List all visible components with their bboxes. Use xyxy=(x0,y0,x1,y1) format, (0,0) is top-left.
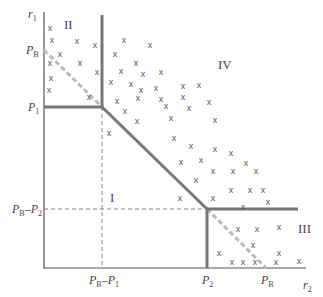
x-tick-p2: P2 xyxy=(201,273,213,289)
x-tick-pb: PB xyxy=(260,273,274,289)
marker: x xyxy=(241,202,246,212)
y-tick-p1: P1 xyxy=(27,100,39,116)
boundary-diagonal xyxy=(102,107,207,209)
marker: x xyxy=(251,240,256,250)
region-label-i: I xyxy=(110,190,114,205)
marker: x xyxy=(75,36,80,46)
y-tick-pb: PB xyxy=(25,43,39,59)
marker: x xyxy=(211,193,216,203)
marker: x xyxy=(178,193,183,203)
marker: x xyxy=(230,257,235,267)
y-axis-label: r1 xyxy=(28,7,37,23)
marker: x xyxy=(123,106,128,116)
marker: x xyxy=(48,58,53,68)
marker: x xyxy=(277,222,282,232)
marker: x xyxy=(189,141,194,151)
x-axis-label: r2 xyxy=(303,278,312,294)
marker: x xyxy=(217,248,222,258)
marker: x xyxy=(187,103,192,113)
marker: x xyxy=(169,113,174,123)
marker: x xyxy=(274,257,279,267)
marker: x xyxy=(134,58,139,68)
marker: x xyxy=(148,40,153,50)
region-label-iv: IV xyxy=(218,57,232,72)
marker: x xyxy=(253,257,258,267)
marker: x xyxy=(107,128,112,138)
marker: x xyxy=(213,144,218,154)
marker: x xyxy=(248,185,253,195)
marker: x xyxy=(122,35,127,45)
marker: x xyxy=(207,97,212,107)
marker: x xyxy=(136,93,141,103)
y-tick-pb-minus-p2: PB–P2 xyxy=(11,202,42,218)
marker: x xyxy=(297,256,302,266)
marker: x xyxy=(179,157,184,167)
marker: x xyxy=(172,133,177,143)
marker: x xyxy=(113,49,118,59)
marker: x xyxy=(194,175,199,185)
marker: x xyxy=(141,69,146,79)
marker: x xyxy=(48,23,53,33)
marker: x xyxy=(159,67,164,77)
marker: x xyxy=(181,81,186,91)
marker: x xyxy=(115,96,120,106)
marker: x xyxy=(154,83,159,93)
marker: x xyxy=(164,101,169,111)
marker: x xyxy=(211,166,216,176)
marker: x xyxy=(87,92,92,102)
marker: x xyxy=(241,257,246,267)
marker: x xyxy=(236,224,241,234)
x-tick-pb-minus-p1: PB–P1 xyxy=(88,273,119,289)
marker: x xyxy=(266,197,271,207)
observation-markers: x x x x x x x x x x x x x x x x x x x x … xyxy=(47,23,302,267)
marker: x xyxy=(58,49,63,59)
rationing-regions-diagram: r1 r2 PB P1 PB–P2 PB–P1 P2 PB II IV I II… xyxy=(0,0,323,297)
marker: x xyxy=(255,224,260,234)
marker: x xyxy=(129,79,134,89)
marker: x xyxy=(213,115,218,125)
marker: x xyxy=(231,166,236,176)
marker: x xyxy=(229,185,234,195)
marker: x xyxy=(93,40,98,50)
marker: x xyxy=(244,158,249,168)
marker: x xyxy=(50,35,55,45)
marker: x xyxy=(109,77,114,87)
marker: x xyxy=(49,73,54,83)
marker: x xyxy=(95,67,100,77)
marker: x xyxy=(119,66,124,76)
region-label-ii: II xyxy=(64,17,73,32)
marker: x xyxy=(261,185,266,195)
marker: x xyxy=(78,58,83,68)
marker: x xyxy=(197,80,202,90)
marker: x xyxy=(181,92,186,102)
marker: x xyxy=(254,166,259,176)
marker: x xyxy=(199,155,204,165)
region-label-iii: III xyxy=(298,221,311,236)
marker: x xyxy=(229,148,234,158)
marker: x xyxy=(47,85,52,95)
marker: x xyxy=(135,116,140,126)
